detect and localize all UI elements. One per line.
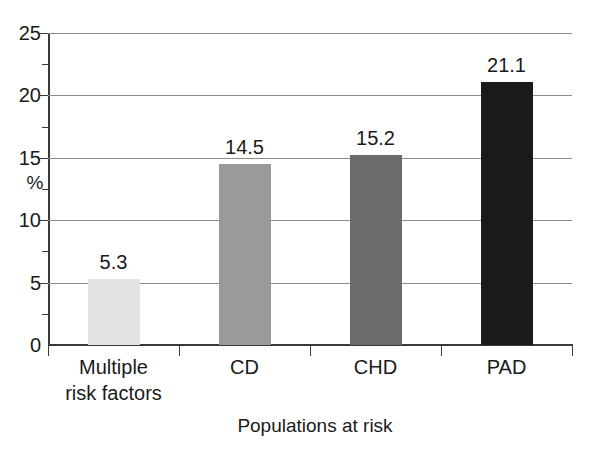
- x-axis-category-label: CD: [230, 355, 259, 381]
- y-tick-mark: [39, 283, 48, 284]
- bar[interactable]: [350, 155, 402, 345]
- x-tick-mark: [48, 346, 49, 356]
- x-tick-mark: [179, 346, 180, 356]
- x-axis-category-label: Multiple risk factors: [65, 355, 162, 406]
- bar[interactable]: [88, 279, 140, 345]
- y-tick-mark: [39, 33, 48, 34]
- y-minor-tick-mark: [42, 64, 48, 65]
- bar[interactable]: [481, 82, 533, 345]
- x-tick-mark: [310, 346, 311, 356]
- x-axis-category-label: PAD: [487, 355, 527, 381]
- plot-area: [48, 33, 572, 345]
- x-tick-mark: [572, 346, 573, 356]
- y-tick-label: 0: [2, 334, 48, 357]
- gridline: [48, 33, 572, 34]
- y-minor-tick-mark: [42, 189, 48, 190]
- x-tick-mark: [441, 346, 442, 356]
- y-minor-tick-mark: [42, 314, 48, 315]
- y-tick-mark: [39, 220, 48, 221]
- x-axis-category-label: CHD: [354, 355, 397, 381]
- bar-value-label: 21.1: [487, 54, 526, 77]
- y-tick-mark: [39, 158, 48, 159]
- bar[interactable]: [219, 164, 271, 345]
- y-axis-tick-labels: 0 5 10 15 20 25: [0, 0, 48, 454]
- bar-value-label: 14.5: [225, 136, 264, 159]
- x-axis-title: Populations at risk: [0, 415, 592, 437]
- bar-value-label: 15.2: [356, 127, 395, 150]
- x-axis-title-text: Populations at risk: [199, 415, 392, 437]
- y-minor-tick-mark: [42, 251, 48, 252]
- y-tick-mark: [39, 95, 48, 96]
- bar-chart: % 0 5 10 15 20 25 5.3Multiple risk facto…: [0, 0, 592, 454]
- bar-value-label: 5.3: [100, 251, 128, 274]
- y-minor-tick-mark: [42, 127, 48, 128]
